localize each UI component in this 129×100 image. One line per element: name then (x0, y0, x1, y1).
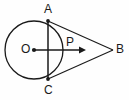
point-label-c: C (44, 84, 53, 96)
point-a-dot (46, 19, 50, 23)
tangent-ab-line (48, 21, 113, 50)
geometry-figure: A B C O P (0, 0, 129, 100)
tangent-cb-line (48, 50, 113, 79)
point-label-o: O (21, 43, 30, 55)
radius-ray-arrowhead-icon (79, 47, 86, 54)
point-label-p: P (66, 36, 74, 48)
geometry-diagram-svg (0, 0, 129, 100)
point-label-a: A (44, 3, 52, 15)
point-c-dot (46, 77, 50, 81)
point-label-b: B (116, 43, 124, 55)
center-point-dot (32, 48, 36, 52)
